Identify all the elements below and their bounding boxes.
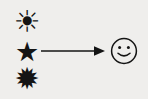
diagram-canvas: ☀ ★ ✹: [0, 0, 148, 99]
twelve-point-burst-icon: ✹: [8, 63, 46, 95]
sun-outline-icon: ☀: [8, 6, 46, 38]
right-arrow-icon: [40, 42, 106, 60]
smiley-face-icon: [110, 37, 138, 65]
